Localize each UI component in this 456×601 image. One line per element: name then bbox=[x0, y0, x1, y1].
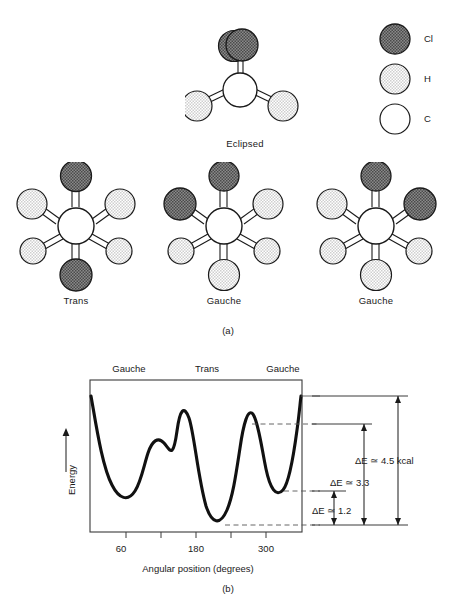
atom-h-lower-left bbox=[168, 238, 194, 264]
legend-label-cl: Cl bbox=[424, 33, 433, 44]
atom-c-central bbox=[223, 73, 257, 107]
legend-swatch-h bbox=[378, 62, 412, 96]
atom-h-right bbox=[268, 91, 298, 121]
chart-top-label-trans: Trans bbox=[168, 363, 246, 374]
newman-gauche-1 bbox=[160, 162, 288, 292]
atom-h-bottom bbox=[209, 260, 240, 291]
arrow-delta-e-3-3 bbox=[361, 424, 367, 525]
energy-diagram-plot bbox=[88, 378, 324, 538]
legend-label-c: C bbox=[424, 113, 431, 124]
atom-cl-top bbox=[361, 162, 391, 191]
x-tick-label-60: 60 bbox=[106, 543, 136, 554]
energy-annotation-4-5: ΔE ≃ 4.5 kcal bbox=[355, 455, 414, 466]
eclipsed-label: Eclipsed bbox=[185, 138, 305, 149]
energy-curve bbox=[91, 396, 301, 521]
atom-h-upper-right bbox=[253, 189, 283, 219]
energy-annotation-3-3: ΔE ≃ 3.3 bbox=[330, 477, 369, 488]
atom-cl-bottom bbox=[60, 259, 92, 291]
figure-root: Eclipsed Cl H C bbox=[0, 0, 456, 601]
atom-h-lower-right bbox=[254, 238, 280, 264]
eclipsed-molecule bbox=[185, 18, 305, 133]
conformer-label-gauche-2: Gauche bbox=[312, 295, 440, 306]
atom-h-lower-right bbox=[406, 238, 432, 264]
atom-c-front bbox=[358, 208, 394, 244]
x-axis-ticks bbox=[126, 532, 266, 538]
atom-h-lower-right bbox=[106, 238, 132, 264]
atom-cl-upper-right bbox=[404, 188, 436, 220]
newman-gauche-2 bbox=[312, 162, 440, 292]
atom-c-front bbox=[58, 208, 94, 244]
chart-top-label-gauche-1: Gauche bbox=[90, 363, 168, 374]
atom-cl-top bbox=[61, 162, 92, 192]
atom-h-bottom bbox=[361, 260, 392, 291]
x-axis-label: Angular position (degrees) bbox=[108, 563, 288, 574]
newman-trans bbox=[12, 162, 140, 292]
atom-c-front bbox=[206, 208, 242, 244]
atom-cl-upper-left bbox=[164, 188, 196, 220]
x-tick-label-180: 180 bbox=[181, 543, 211, 554]
panel-a-caption: (a) bbox=[178, 325, 278, 336]
atom-h-upper-left bbox=[317, 189, 347, 219]
chart-top-label-gauche-2: Gauche bbox=[244, 363, 322, 374]
atom-cl-front bbox=[226, 29, 258, 61]
atom-h-left bbox=[185, 91, 212, 121]
x-tick-label-300: 300 bbox=[251, 543, 281, 554]
panel-b-caption: (b) bbox=[178, 583, 278, 594]
legend-label-h: H bbox=[424, 73, 431, 84]
legend-swatch-cl bbox=[378, 22, 412, 56]
conformer-label-trans: Trans bbox=[12, 295, 140, 306]
conformer-label-gauche-1: Gauche bbox=[160, 295, 288, 306]
energy-annotation-1-2: ΔE ≃ 1.2 bbox=[312, 505, 351, 516]
legend-swatch-c bbox=[378, 102, 412, 136]
y-axis-arrow bbox=[60, 428, 72, 474]
atom-h-upper-left bbox=[17, 189, 47, 219]
atom-h-lower-left bbox=[20, 238, 46, 264]
atom-h-lower-left bbox=[320, 238, 346, 264]
atom-cl-top bbox=[209, 162, 239, 191]
atom-h-upper-right bbox=[105, 189, 135, 219]
